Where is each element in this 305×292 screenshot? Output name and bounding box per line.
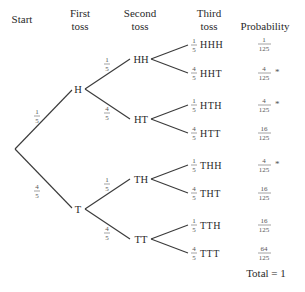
outcome-label: THT: [200, 188, 221, 199]
svg-text:125: 125: [259, 134, 270, 142]
svg-text:5: 5: [35, 117, 39, 125]
branch-prob-HH: 1 5: [104, 56, 110, 73]
svg-text:5: 5: [192, 106, 196, 114]
svg-text:125: 125: [259, 226, 270, 234]
svg-text:5: 5: [192, 226, 196, 234]
branch-prob-T: 4 5: [34, 183, 40, 200]
header-probability: Probability: [241, 20, 290, 32]
svg-text:125: 125: [259, 45, 270, 53]
outcome-row-HHT: 4 5 HHT 4 125 *: [191, 65, 280, 82]
svg-text:4: 4: [192, 65, 196, 73]
node-TH: TH: [134, 174, 148, 185]
outcome-row-HHH: 1 5 HHH 1 125: [191, 36, 271, 54]
outcome-label: HTH: [200, 100, 222, 111]
header-third-toss-line2: toss: [200, 20, 217, 32]
svg-text:5: 5: [192, 254, 196, 262]
total-label: Total = 1: [246, 267, 286, 279]
svg-text:4: 4: [262, 157, 266, 165]
node-T: T: [75, 204, 82, 215]
svg-text:1: 1: [192, 97, 196, 105]
edges-first-toss: [15, 90, 72, 208]
node-TT: TT: [135, 234, 148, 245]
outcome-row-THT: 4 5 THT 16 125: [191, 185, 271, 202]
svg-text:125: 125: [259, 74, 270, 82]
svg-text:125: 125: [259, 194, 270, 202]
svg-text:16: 16: [261, 125, 269, 133]
header-second-toss-line1: Second: [124, 7, 157, 19]
svg-text:4: 4: [192, 125, 196, 133]
svg-text:125: 125: [259, 254, 270, 262]
svg-text:4: 4: [105, 105, 109, 113]
edges-third-toss: [151, 45, 188, 253]
outcome-label: THH: [200, 160, 222, 171]
svg-text:*: *: [275, 159, 280, 169]
outcome-row-TTT: 4 5 TTT 64 125: [191, 245, 271, 262]
svg-text:4: 4: [262, 97, 266, 105]
outcome-row-HTH: 1 5 HTH 4 125 *: [191, 97, 280, 114]
svg-text:5: 5: [192, 166, 196, 174]
branch-prob-H: 1 5: [34, 108, 40, 125]
svg-text:4: 4: [35, 183, 39, 191]
svg-text:5: 5: [105, 234, 109, 242]
branch-prob-TH: 1 5: [104, 176, 110, 193]
branch-prob-TT: 4 5: [104, 225, 110, 242]
svg-text:5: 5: [192, 134, 196, 142]
svg-text:64: 64: [261, 245, 269, 253]
edges-second-toss: [85, 59, 130, 239]
probability-tree-diagram: Start First toss Second toss Third toss …: [0, 0, 305, 292]
header-first-toss-line1: First: [70, 7, 90, 19]
svg-text:5: 5: [105, 114, 109, 122]
outcome-label: HHH: [200, 39, 223, 50]
node-H: H: [74, 84, 82, 95]
svg-text:1: 1: [105, 176, 109, 184]
svg-text:4: 4: [262, 65, 266, 73]
outcome-row-HTT: 4 5 HTT 16 125: [191, 125, 271, 142]
svg-text:16: 16: [261, 185, 269, 193]
outcome-label: HTT: [200, 128, 221, 139]
branch-prob-HT: 4 5: [104, 105, 110, 122]
svg-text:5: 5: [35, 192, 39, 200]
svg-text:1: 1: [192, 37, 196, 45]
svg-text:1: 1: [262, 36, 266, 44]
svg-text:1: 1: [192, 157, 196, 165]
header-third-toss-line1: Third: [197, 7, 222, 19]
node-HT: HT: [134, 114, 149, 125]
svg-text:1: 1: [192, 217, 196, 225]
outcome-row-THH: 1 5 THH 4 125 *: [191, 157, 280, 174]
svg-text:5: 5: [192, 194, 196, 202]
header-start: Start: [12, 13, 33, 25]
node-HH: HH: [133, 54, 149, 65]
outcome-label: TTH: [200, 220, 221, 231]
svg-text:5: 5: [192, 46, 196, 54]
svg-text:*: *: [275, 67, 280, 77]
svg-text:1: 1: [35, 108, 39, 116]
svg-text:125: 125: [259, 106, 270, 114]
header-first-toss-line2: toss: [71, 20, 88, 32]
svg-text:5: 5: [105, 65, 109, 73]
svg-text:5: 5: [105, 185, 109, 193]
outcome-label: TTT: [200, 248, 220, 259]
outcome-label: HHT: [200, 68, 222, 79]
svg-text:4: 4: [105, 225, 109, 233]
svg-text:1: 1: [105, 56, 109, 64]
svg-text:*: *: [275, 99, 280, 109]
outcome-row-TTH: 1 5 TTH 16 125: [191, 217, 271, 234]
svg-text:125: 125: [259, 166, 270, 174]
svg-text:16: 16: [261, 217, 269, 225]
svg-text:5: 5: [192, 74, 196, 82]
header-second-toss-line2: toss: [131, 20, 148, 32]
svg-text:4: 4: [192, 245, 196, 253]
svg-text:4: 4: [192, 185, 196, 193]
